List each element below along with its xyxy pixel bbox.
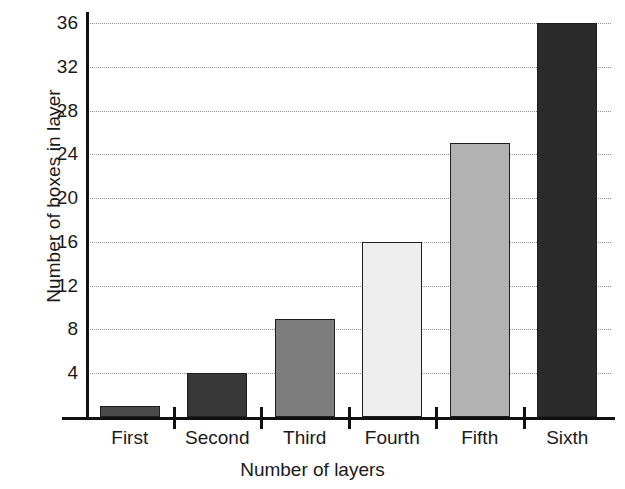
x-axis-category-label: Fifth bbox=[436, 428, 524, 447]
x-axis-category-label: Sixth bbox=[524, 428, 612, 447]
x-axis-category-label: Second bbox=[174, 428, 262, 447]
bar-chart: Number of boxes in layer 481216202428323… bbox=[0, 0, 625, 489]
x-axis-tick bbox=[435, 407, 438, 429]
x-axis-category-label: First bbox=[86, 428, 174, 447]
x-axis-ticks bbox=[0, 0, 625, 489]
x-axis-category-label: Third bbox=[261, 428, 349, 447]
x-axis-tick bbox=[260, 407, 263, 429]
x-axis-category-label: Fourth bbox=[349, 428, 437, 447]
x-axis-tick bbox=[173, 407, 176, 429]
x-axis-tick bbox=[523, 407, 526, 429]
x-axis-tick bbox=[348, 407, 351, 429]
x-axis-category-labels: FirstSecondThirdFourthFifthSixth bbox=[0, 428, 625, 456]
x-axis-title: Number of layers bbox=[0, 459, 625, 481]
